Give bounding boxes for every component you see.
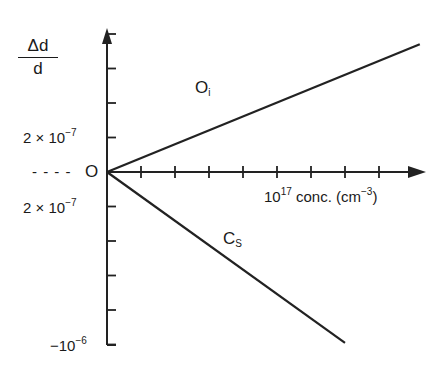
y-axis-label: Δd d xyxy=(18,36,58,79)
y-tick-label-min: −10−6 xyxy=(50,336,87,353)
y-axis-arrow-icon xyxy=(102,28,112,44)
x-axis-arrow-icon xyxy=(408,166,426,178)
y-tick-label-pos: 2 × 10−7 xyxy=(23,128,77,145)
origin-dashes: - - - - xyxy=(32,164,71,179)
y-ticks xyxy=(107,34,116,345)
chart-canvas xyxy=(0,0,444,368)
origin-label: O xyxy=(85,163,98,180)
series-label-cs: CS xyxy=(223,230,242,249)
series-line-oi xyxy=(107,44,420,172)
y-tick-label-neg: 2 × 10−7 xyxy=(23,198,77,215)
series-label-oi: Oi xyxy=(195,79,210,98)
x-axis-label: 1017 conc. (cm−3) xyxy=(264,187,377,204)
